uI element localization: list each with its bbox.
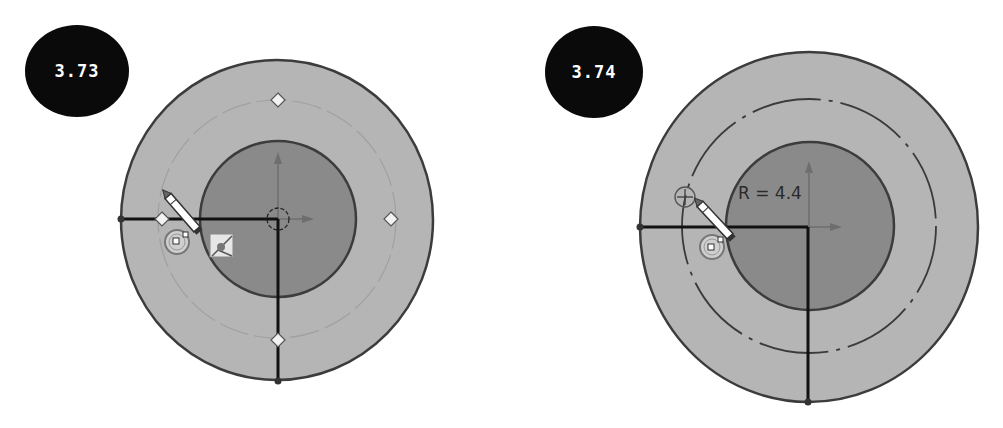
step-badge: 3.74 (545, 26, 643, 118)
outer-circle[interactable] (640, 52, 978, 402)
radius-dimension-label: R = 4.4 (738, 183, 802, 203)
figure-3-74: 3.74 R = 4.4 (0, 0, 1003, 428)
line-endpoint[interactable] (805, 399, 812, 406)
line-endpoint[interactable] (637, 224, 644, 231)
crosshair-circle-icon (675, 187, 695, 207)
preview-circle (682, 99, 936, 353)
pencil-cursor-icon (692, 195, 736, 241)
axis-triad-icon (805, 161, 842, 231)
snap-point-icon (700, 235, 724, 259)
inner-circle[interactable] (726, 142, 894, 310)
step-label: 3.74 (572, 62, 617, 82)
sketch-canvas-2[interactable] (0, 0, 1003, 428)
